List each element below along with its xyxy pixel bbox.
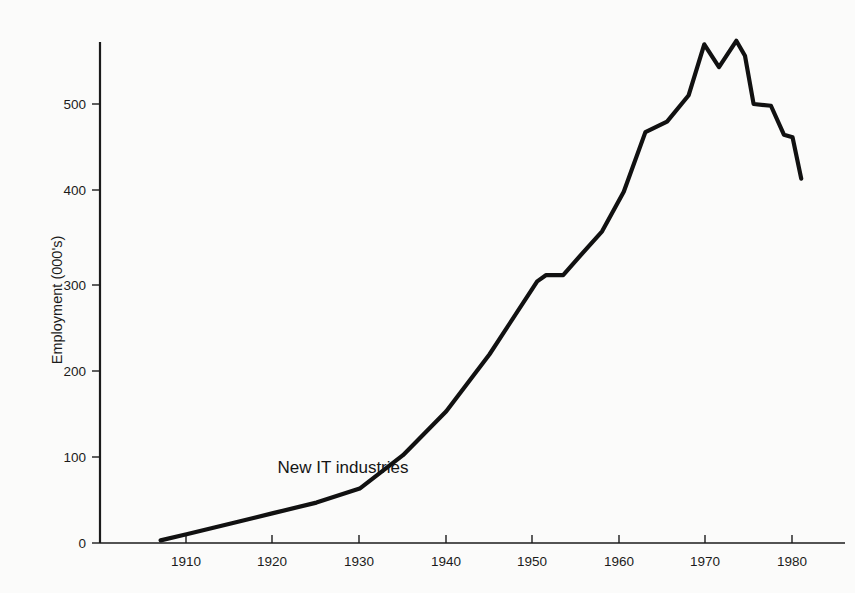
series-line-new-it-industries bbox=[161, 41, 802, 541]
x-tick-label-1950: 1950 bbox=[517, 554, 547, 569]
x-tick-label-1940: 1940 bbox=[431, 554, 461, 569]
y-tick-label-0: 0 bbox=[78, 536, 86, 551]
x-tick-labels: 1910 1920 1930 1940 1950 1960 1970 1980 bbox=[171, 554, 807, 569]
annotation-new-it-industries: New IT industries bbox=[278, 458, 409, 477]
y-tick-label-400: 400 bbox=[63, 183, 86, 198]
y-tick-label-100: 100 bbox=[63, 450, 86, 465]
y-tick-labels: 0 100 200 300 400 500 bbox=[63, 97, 86, 551]
employment-line-chart: 0 100 200 300 400 500 1910 1920 1930 194… bbox=[0, 0, 855, 593]
x-tick-marks bbox=[186, 535, 792, 543]
y-tick-label-500: 500 bbox=[63, 97, 86, 112]
y-tick-marks bbox=[92, 104, 100, 543]
x-tick-label-1930: 1930 bbox=[344, 554, 374, 569]
x-tick-label-1910: 1910 bbox=[171, 554, 201, 569]
y-axis-title: Employment (000's) bbox=[49, 236, 65, 364]
x-tick-label-1980: 1980 bbox=[777, 554, 807, 569]
x-tick-label-1920: 1920 bbox=[257, 554, 287, 569]
chart-page: 0 100 200 300 400 500 1910 1920 1930 194… bbox=[0, 0, 855, 593]
x-tick-label-1960: 1960 bbox=[604, 554, 634, 569]
x-tick-label-1970: 1970 bbox=[690, 554, 720, 569]
y-tick-label-300: 300 bbox=[63, 278, 86, 293]
y-tick-label-200: 200 bbox=[63, 364, 86, 379]
